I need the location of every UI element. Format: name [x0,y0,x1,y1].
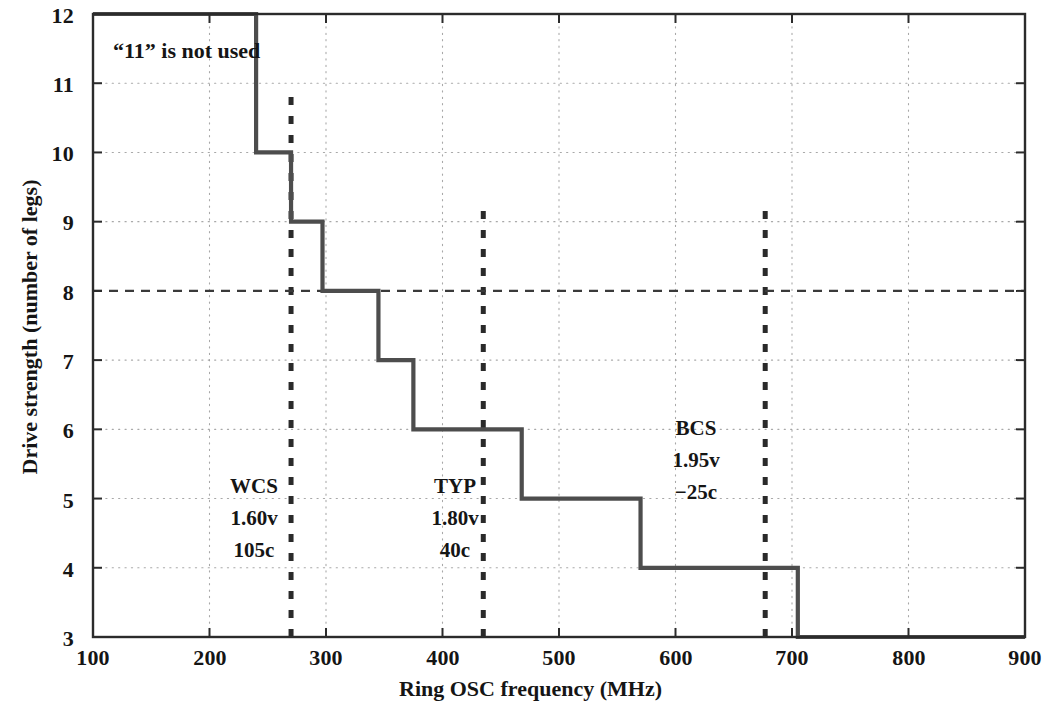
x-tick-label-100: 100 [63,645,123,671]
annotation-typ-name: TYP [407,470,503,502]
annotation-typ-voltage: 1.80v [407,502,503,534]
x-tick-label-900: 900 [995,645,1055,671]
x-tick-label-700: 700 [762,645,822,671]
annotation-typ: TYP 1.80v 40c [407,470,503,566]
annotation-wcs-temperature: 105c [206,534,302,566]
annotation-bcs-temperature: −25c [648,476,744,508]
x-tick-label-300: 300 [296,645,356,671]
y-tick-label-12: 12 [30,3,74,29]
annotation-wcs-voltage: 1.60v [206,502,302,534]
annotation-typ-temperature: 40c [407,534,503,566]
annotation-bcs-voltage: 1.95v [648,444,744,476]
x-axis-title: Ring OSC frequency (MHz) [0,676,1061,702]
x-tick-label-200: 200 [180,645,240,671]
annotation-wcs: WCS 1.60v 105c [206,470,302,566]
note-eleven-not-used: “11” is not used [113,38,260,64]
x-tick-label-800: 800 [879,645,939,671]
x-tick-label-500: 500 [529,645,589,671]
annotation-bcs-name: BCS [648,412,744,444]
y-tick-label-11: 11 [30,72,74,98]
y-axis-title: Drive strength (number of legs) [17,117,43,537]
x-tick-label-400: 400 [413,645,473,671]
plot-canvas [0,0,1061,724]
annotation-wcs-name: WCS [206,470,302,502]
x-tick-label-600: 600 [646,645,706,671]
chart-figure: 12 11 10 9 8 7 6 5 4 3 100 200 300 400 5… [0,0,1061,724]
annotation-bcs: BCS 1.95v −25c [648,412,744,508]
y-tick-label-4: 4 [30,557,74,583]
